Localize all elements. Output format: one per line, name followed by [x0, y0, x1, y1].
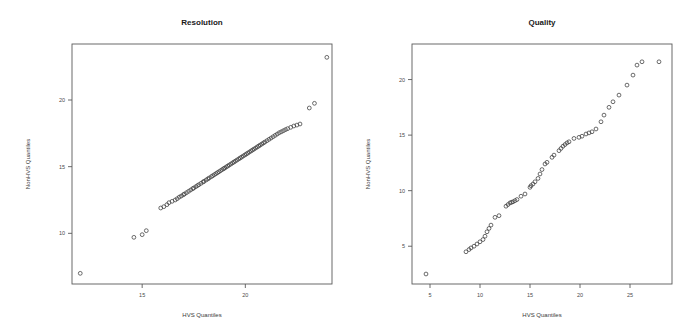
- data-point: [607, 105, 611, 109]
- x-axis-title: HVS Quantiles: [182, 312, 221, 318]
- data-point: [625, 83, 629, 87]
- y-tick-label: 10: [399, 188, 405, 194]
- x-tick-label: 20: [242, 292, 248, 298]
- x-tick-label: 15: [527, 292, 533, 298]
- data-point: [635, 63, 639, 67]
- data-point: [599, 120, 603, 124]
- panel-title: Quality: [528, 18, 556, 27]
- y-tick-label: 15: [59, 164, 65, 170]
- data-point: [540, 168, 544, 172]
- data-point: [640, 60, 644, 64]
- data-point: [132, 235, 136, 239]
- panel-title: Resolution: [181, 18, 222, 27]
- data-point: [325, 55, 329, 59]
- plot-frame: [72, 44, 332, 284]
- data-point: [611, 100, 615, 104]
- data-point: [519, 194, 523, 198]
- y-tick-label: 20: [59, 97, 65, 103]
- x-tick-label: 25: [627, 292, 633, 298]
- data-point: [536, 177, 540, 181]
- panel-quality: Quality5101520255101520HVS QuantilesNonH…: [340, 0, 680, 330]
- y-axis-title: NonHVS Quantiles: [365, 139, 371, 189]
- y-tick-label: 10: [59, 230, 65, 236]
- x-tick-label: 15: [139, 292, 145, 298]
- y-axis-title: NonHVS Quantiles: [25, 139, 31, 189]
- data-point: [493, 215, 497, 219]
- panel-resolution: Resolution1520101520HVS QuantilesNonHVS …: [0, 0, 340, 330]
- data-point: [572, 137, 576, 141]
- x-tick-label: 5: [428, 292, 431, 298]
- data-point: [307, 106, 311, 110]
- data-point: [497, 214, 501, 218]
- data-point: [313, 101, 317, 105]
- data-points: [424, 60, 661, 276]
- data-point: [523, 192, 527, 196]
- x-tick-label: 20: [577, 292, 583, 298]
- x-tick-label: 10: [477, 292, 483, 298]
- data-point: [602, 113, 606, 117]
- x-axis-title: HVS Quantiles: [522, 312, 561, 318]
- data-point: [424, 272, 428, 276]
- data-point: [594, 127, 598, 131]
- qq-plot-figure: Resolution1520101520HVS QuantilesNonHVS …: [0, 0, 680, 330]
- data-point: [657, 60, 661, 64]
- plot-quality: Quality5101520255101520HVS QuantilesNonH…: [340, 0, 680, 330]
- data-point: [617, 93, 621, 97]
- y-tick-label: 20: [399, 77, 405, 83]
- data-point: [78, 271, 82, 275]
- data-point: [631, 73, 635, 77]
- data-points: [78, 55, 328, 275]
- plot-resolution: Resolution1520101520HVS QuantilesNonHVS …: [0, 0, 340, 330]
- data-point: [144, 229, 148, 233]
- data-point: [140, 233, 144, 237]
- y-tick-label: 5: [402, 243, 405, 249]
- plot-frame: [412, 44, 672, 284]
- data-point: [483, 234, 487, 238]
- data-point: [489, 223, 493, 227]
- data-point: [538, 172, 542, 176]
- y-tick-label: 15: [399, 132, 405, 138]
